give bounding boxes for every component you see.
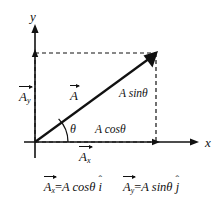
y-axis-label: y (30, 10, 36, 23)
vector-ax-subscript: x (87, 156, 91, 165)
vector-ax-label: Ax (79, 150, 91, 165)
formula-ay-subscript: y (131, 186, 134, 195)
a-sin-theta-label: A sinθ (119, 88, 148, 100)
formula-ay-magnitude: A sinθ (141, 180, 172, 194)
vector-components-diagram: y x θ A cosθ A sinθ A Ay Ax Ax=A cosθ ˆi… (0, 0, 223, 209)
a-cos-theta-label: A cosθ (95, 124, 126, 136)
vector-ay-symbol: A (19, 89, 27, 104)
vector-a-label: A (70, 89, 78, 102)
formula-ax-magnitude: A cosθ (62, 180, 95, 194)
vector-a-symbol: A (70, 88, 78, 103)
formula-row: Ax=A cosθ ˆi Ay=A sinθ ˆj (0, 180, 223, 195)
formula-ax-subscript: x (52, 186, 55, 195)
angle-theta-label: θ (70, 123, 76, 135)
formula-ay-vector-symbol: A (123, 180, 131, 194)
formula-ax-hat: ˆ (98, 175, 102, 186)
diagram-canvas (0, 0, 223, 209)
formula-ax-vector-symbol: A (44, 180, 52, 194)
vector-ay-label: Ay (19, 90, 31, 105)
formula-ay: Ay=A sinθ ˆj (123, 180, 179, 195)
vector-ay-subscript: y (27, 96, 31, 105)
vector-ax-symbol: A (79, 149, 87, 164)
formula-ax-equals: = (55, 180, 62, 194)
x-axis-label: x (205, 136, 211, 149)
formula-ax: Ax=A cosθ ˆi (44, 180, 102, 195)
formula-ay-hat: ˆ (176, 175, 180, 186)
